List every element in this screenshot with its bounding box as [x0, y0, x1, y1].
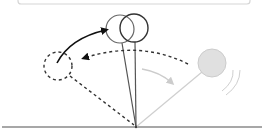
top-frame [18, 0, 250, 4]
dashed-path-to-left [84, 50, 188, 64]
arrow-left-to-top [57, 30, 106, 63]
dashed-bob-left [44, 52, 72, 80]
pivot [135, 126, 137, 128]
pendulum-diagram [0, 0, 264, 138]
bob-right-light [198, 49, 226, 77]
dashed-rod-left [70, 76, 134, 125]
rod-upright-1 [122, 43, 136, 127]
arrow-right-down [142, 69, 172, 83]
rod-upright-2 [135, 42, 136, 127]
